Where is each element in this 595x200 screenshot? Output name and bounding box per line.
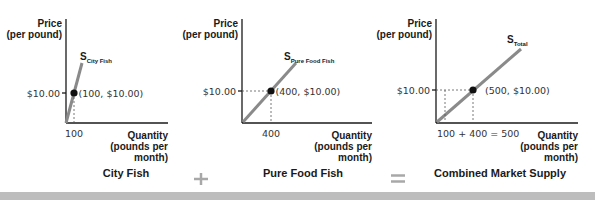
y-axis-label: Price xyxy=(214,18,239,29)
equilibrium-point xyxy=(469,86,476,93)
panel-title: Combined Market Supply xyxy=(434,167,567,179)
equilibrium-point xyxy=(70,89,77,96)
plus-operator-icon xyxy=(194,173,208,185)
y-axis-label-unit: (per pound) xyxy=(376,29,432,40)
price-tick-label: $10.00 xyxy=(27,88,60,99)
y-axis-label-unit: (per pound) xyxy=(6,29,62,40)
panel-title: City Fish xyxy=(103,167,150,179)
curve-label: STotal xyxy=(507,34,528,47)
x-axis-label: Quantity xyxy=(127,130,168,141)
x-axis-label-unit: (pounds per xyxy=(110,141,168,152)
point-label: (100, $10.00) xyxy=(79,88,144,99)
x-axis-label-unit-2: month) xyxy=(544,152,578,163)
equilibrium-point xyxy=(267,87,274,94)
market-supply-diagram: Price (per pound) $10.00 (100, $10.00) S… xyxy=(0,0,595,200)
x-axis-label-unit: (pounds per xyxy=(520,141,578,152)
price-tick-label: $10.00 xyxy=(203,86,236,97)
quantity-tick-label: 400 xyxy=(262,128,280,139)
price-tick-label: $10.00 xyxy=(397,85,430,96)
y-axis-label: Price xyxy=(408,18,433,29)
y-axis-label: Price xyxy=(38,18,63,29)
curve-label: SPure Food Fish xyxy=(284,51,335,64)
panel-city-fish: Price (per pound) $10.00 (100, $10.00) S… xyxy=(6,18,168,179)
x-axis-label-unit: (pounds per xyxy=(314,141,372,152)
quantity-tick-label: 100 xyxy=(65,128,83,139)
x-axis-label-unit-2: month) xyxy=(134,152,168,163)
point-label: (400, $10.00) xyxy=(276,86,341,97)
panel-title: Pure Food Fish xyxy=(263,167,343,179)
x-axis-label: Quantity xyxy=(331,130,372,141)
panel-combined-market-supply: Price (per pound) $10.00 (500, $10.00) S… xyxy=(376,18,578,179)
equals-operator-icon xyxy=(391,176,405,182)
y-axis-label-unit: (per pound) xyxy=(182,29,238,40)
point-label: (500, $10.00) xyxy=(485,85,550,96)
x-axis-label: Quantity xyxy=(537,130,578,141)
curve-label: SCity Fish xyxy=(80,51,112,64)
panel-pure-food-fish: Price (per pound) $10.00 (400, $10.00) S… xyxy=(182,18,372,179)
quantity-tick-label: 100 + 400 = 500 xyxy=(437,128,519,139)
footer-divider xyxy=(0,192,595,200)
x-axis-label-unit-2: month) xyxy=(338,152,372,163)
